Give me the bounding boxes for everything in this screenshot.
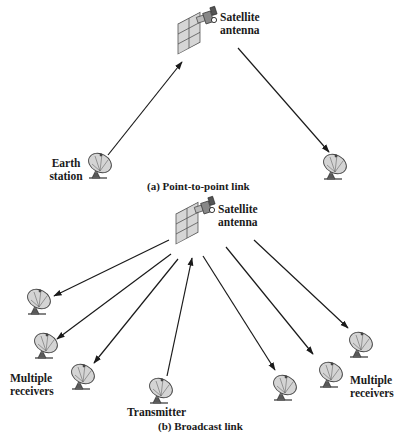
receiver-dish-icon-6	[346, 328, 376, 357]
receiving-dish-icon	[320, 150, 350, 179]
downlink-arrow-5	[226, 247, 313, 354]
downlink-arrow-4	[203, 256, 275, 370]
satellite-label-b-line1: Satellite	[218, 203, 258, 216]
satellite-link-diagram	[0, 0, 400, 436]
satellite-label-b: Satellite antenna	[218, 203, 258, 229]
satellite-label-a-line1: Satellite	[220, 11, 260, 24]
receiver-dish-icon-3	[68, 360, 98, 389]
satellite-label-a-line2: antenna	[220, 24, 260, 37]
downlink-arrow	[238, 48, 329, 152]
downlink-arrow-6	[254, 240, 348, 328]
right-receivers-label-line2: receivers	[350, 387, 394, 400]
left-receivers-label-line2: receivers	[10, 385, 54, 398]
uplink-arrow	[108, 62, 182, 155]
receiver-dish-icon-5	[316, 358, 346, 387]
transmitter-dish-icon	[146, 374, 176, 403]
receiver-dish-icon-4	[270, 371, 300, 400]
transmitter-label: Transmitter	[127, 406, 186, 419]
earth-station-label-line1: Earth	[46, 157, 86, 170]
caption-part-a: (a) Point-to-point link	[147, 180, 250, 192]
downlink-arrow-3	[94, 259, 178, 363]
earth-station-label: Earth station	[46, 157, 86, 183]
part-a-point-to-point	[85, 6, 350, 179]
satellite-icon	[178, 6, 217, 54]
satellite-label-b-line2: antenna	[218, 216, 258, 229]
left-receivers-label-line1: Multiple	[10, 372, 54, 385]
earth-station-label-line2: station	[46, 170, 86, 183]
caption-part-b: (b) Broadcast link	[158, 420, 243, 432]
part-b-broadcast	[24, 196, 376, 403]
satellite-label-a: Satellite antenna	[220, 11, 260, 37]
left-receivers-label: Multiple receivers	[10, 372, 54, 398]
right-receivers-label: Multiple receivers	[350, 374, 394, 400]
transmitter-uplink-arrow	[167, 258, 192, 376]
receiver-dish-icon-2	[31, 329, 61, 358]
earth-station-dish-icon	[85, 149, 115, 178]
satellite-icon	[176, 196, 215, 244]
receiver-dish-icon-1	[24, 285, 54, 314]
right-receivers-label-line1: Multiple	[350, 374, 394, 387]
